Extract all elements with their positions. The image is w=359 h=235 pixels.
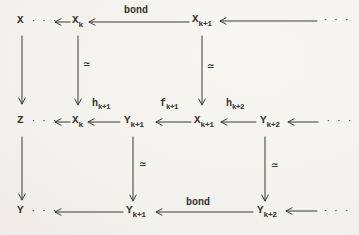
arrow-bot-yk1-to-dots — [55, 209, 123, 215]
label-simeq-yk1: ≃ — [139, 160, 147, 169]
ellipsis-mid-left: · · · — [31, 117, 58, 125]
node-y: Y — [17, 205, 24, 216]
node-yk1-bot: Yk+1 — [126, 205, 146, 219]
label-h-k2: hk+2 — [226, 99, 244, 112]
label-simeq-xk1: ≃ — [207, 62, 215, 71]
arrow-h-k2 — [221, 119, 256, 125]
label-f-k1: fk+1 — [160, 99, 178, 112]
ellipsis-top-right: · · · — [323, 16, 350, 24]
arrow-xk-equiv — [75, 36, 81, 105]
arrow-z-to-y — [19, 137, 25, 200]
node-xk-mid: Xk — [72, 115, 83, 129]
arrow-yk1-equiv — [130, 137, 136, 201]
node-xk-top: Xk — [72, 15, 83, 29]
label-bond-bottom: bond — [186, 198, 210, 208]
arrow-bot-bond — [156, 209, 253, 215]
arrow-bot-dots-to-yk2 — [286, 208, 317, 214]
arrow-yk2-equiv — [262, 137, 268, 201]
label-bond-top: bond — [124, 6, 148, 16]
label-h-k1: hk+1 — [92, 99, 110, 112]
arrow-x-to-z — [19, 36, 25, 104]
label-simeq-yk2: ≃ — [271, 161, 279, 170]
node-yk2-mid: Yk+2 — [260, 115, 280, 129]
label-simeq-xk: ≃ — [83, 60, 91, 69]
ellipsis-top-left: · · · — [31, 17, 58, 25]
arrow-mid-dots-to-yk2 — [288, 119, 318, 125]
arrow-xk1-equiv — [199, 36, 205, 105]
node-x: X — [17, 15, 24, 26]
ellipsis-bot-left: · · · — [31, 207, 58, 215]
ellipsis-mid-right: · · · — [326, 117, 353, 125]
arrow-h-k1 — [88, 119, 120, 125]
node-z: Z — [17, 115, 24, 126]
node-yk1-mid: Yk+1 — [124, 115, 144, 129]
arrow-top-dots-to-xk1 — [220, 18, 317, 24]
node-xk1-top: Xk+1 — [192, 14, 212, 28]
arrow-top-bond — [89, 19, 189, 25]
node-xk1-mid: Xk+1 — [194, 115, 214, 129]
ellipsis-bot-right: · · · — [323, 207, 350, 215]
diagram-canvas: X · · · Xk bond Xk+1 · · · ≃ ≃ Z · · · X… — [0, 0, 359, 235]
node-yk2-bot: Yk+2 — [257, 205, 277, 219]
arrow-f-k1 — [156, 119, 191, 125]
